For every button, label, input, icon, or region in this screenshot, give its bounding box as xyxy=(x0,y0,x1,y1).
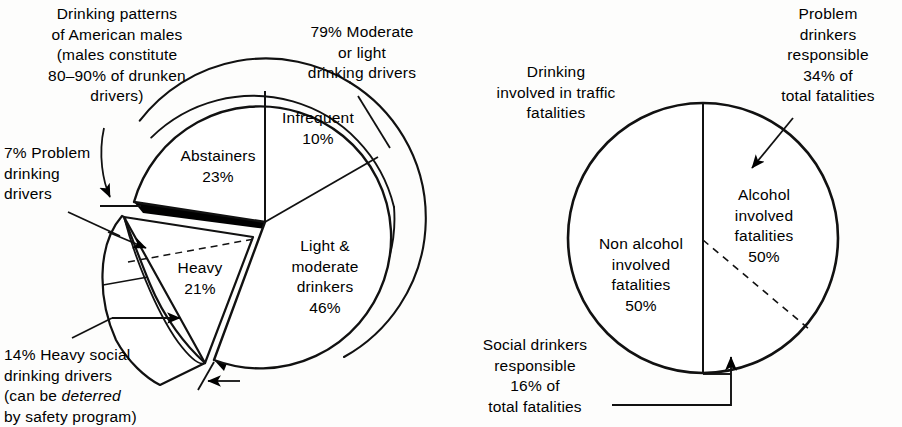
leader-heavy-social-14 xyxy=(72,318,112,338)
bracket-label-7-problem-drinking-drivers: 7% Problem drinking drivers xyxy=(4,143,144,205)
annotation-problem-drinkers-34: Problem drinkers responsible 34% of tota… xyxy=(754,4,902,107)
leader-problem-7-tail xyxy=(68,212,120,236)
heavy-social-text-part-2: by safety program) xyxy=(4,408,137,425)
heavy-social-emphasis-deterred: deterred xyxy=(62,387,121,404)
slice-label-alcohol-involved-fatalities: Alcohol involved fatalities 50% xyxy=(714,185,814,267)
slice-label-infrequent: Infrequent 10% xyxy=(266,108,370,149)
left-pie-group xyxy=(68,58,426,390)
slice-label-heavy: Heavy 21% xyxy=(163,258,237,299)
annotation-social-drinkers-16: Social drinkers responsible 16% of total… xyxy=(462,335,608,417)
slice-label-light-moderate-drinkers: Light & moderate drinkers 46% xyxy=(277,236,373,318)
slice-label-abstainers: Abstainers 23% xyxy=(162,146,274,187)
right-chart-caption: Drinking involved in traffic fatalities xyxy=(468,62,644,124)
slice-label-non-alcohol-involved-fatalities: Non alcohol involved fatalities 50% xyxy=(584,234,698,316)
figure-canvas: Drinking patterns of American males (mal… xyxy=(0,0,902,427)
bracket-label-79-moderate-or-light: 79% Moderate or light drinking drivers xyxy=(267,22,457,84)
left-chart-caption: Drinking patterns of American males (mal… xyxy=(2,4,232,107)
bracket-label-14-heavy-social-drinking-drivers: 14% Heavy social drinking drivers (can b… xyxy=(4,345,214,427)
